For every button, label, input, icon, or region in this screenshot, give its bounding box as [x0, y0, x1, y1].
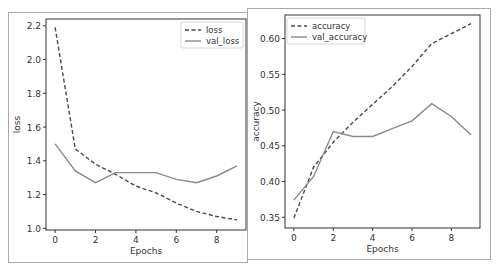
- y-tick-label: 0.35: [260, 213, 280, 223]
- x-axis-label: Epochs: [366, 244, 399, 254]
- y-tick-label: 1.2: [27, 190, 41, 200]
- loss-chart: 1.01.21.41.61.82.02.202468Epochslossloss…: [12, 19, 246, 256]
- accuracy-chart: 0.350.400.450.500.550.6002468Epochsaccur…: [251, 15, 480, 254]
- x-tick-label: 8: [449, 233, 455, 243]
- x-tick-label: 0: [52, 235, 58, 245]
- accuracy-legend: accuracyval_accuracy: [287, 18, 367, 44]
- accuracy-axes-frame: [285, 15, 480, 228]
- y-tick-label: 0.60: [260, 34, 280, 44]
- y-tick-label: 2.0: [27, 55, 42, 65]
- x-axis-label: Epochs: [130, 246, 163, 256]
- y-tick-label: 2.2: [27, 21, 41, 31]
- x-tick-label: 2: [330, 233, 336, 243]
- x-tick-label: 0: [291, 233, 297, 243]
- x-tick-label: 4: [133, 235, 139, 245]
- legend-label: loss: [206, 25, 223, 35]
- series-val-accuracy: [294, 104, 471, 201]
- y-tick-label: 0.45: [260, 141, 280, 151]
- y-tick-label: 1.6: [27, 123, 42, 133]
- y-tick-label: 1.0: [27, 224, 42, 234]
- x-tick-label: 8: [214, 235, 220, 245]
- y-axis-label: accuracy: [251, 101, 261, 142]
- x-tick-label: 6: [173, 235, 179, 245]
- legend-label: val_accuracy: [312, 32, 367, 42]
- y-tick-label: 1.8: [27, 89, 42, 99]
- loss-axes-frame: [46, 19, 246, 230]
- x-tick-label: 6: [409, 233, 415, 243]
- series-val-loss: [55, 144, 237, 183]
- y-tick-label: 0.50: [260, 106, 280, 116]
- loss-legend: lossval_loss: [181, 22, 243, 48]
- legend-label: val_loss: [206, 36, 240, 46]
- legend-label: accuracy: [312, 21, 350, 31]
- x-tick-label: 4: [370, 233, 376, 243]
- x-tick-label: 2: [93, 235, 99, 245]
- y-tick-label: 0.40: [260, 177, 280, 187]
- y-tick-label: 0.55: [260, 70, 280, 80]
- series-accuracy: [294, 24, 471, 218]
- y-tick-label: 1.4: [27, 156, 42, 166]
- charts-canvas: 1.01.21.41.61.82.02.202468Epochslossloss…: [0, 0, 499, 264]
- series-loss: [55, 27, 237, 220]
- y-axis-label: loss: [12, 115, 22, 133]
